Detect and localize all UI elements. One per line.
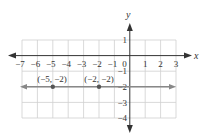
- arrow-right-icon: [184, 53, 192, 59]
- x-tick: 1: [143, 59, 148, 69]
- y-axis-label: y: [125, 9, 131, 20]
- y-tick: −1: [117, 66, 127, 76]
- arrow-left-icon: [8, 53, 16, 59]
- point-neg2-neg2: [97, 85, 101, 89]
- arrow-down-icon: [127, 125, 133, 133]
- y-tick-labels: 1 −1 −2 −3 −4: [117, 35, 127, 123]
- x-tick-labels: −7 −6 −5 −4 −3 −2 −1 0 1 2 3: [15, 59, 179, 69]
- x-tick: −3: [77, 59, 87, 69]
- y-tick: 1: [123, 35, 128, 45]
- line-y-neg2: (−5, −2) (−2, −2): [20, 74, 176, 90]
- x-tick: −5: [46, 59, 56, 69]
- x-tick: −2: [92, 59, 102, 69]
- point-label-2: (−2, −2): [84, 74, 114, 84]
- x-tick: −6: [31, 59, 41, 69]
- x-tick: 2: [158, 59, 163, 69]
- y-tick: −3: [117, 98, 127, 108]
- y-tick: −4: [117, 113, 127, 123]
- arrow-left-icon: [20, 84, 27, 90]
- x-tick: −4: [61, 59, 71, 69]
- arrow-up-icon: [127, 23, 133, 31]
- x-tick: −7: [15, 59, 25, 69]
- x-tick: −1: [108, 59, 118, 69]
- arrow-right-icon: [169, 84, 176, 90]
- coordinate-plane: x y −7 −6 −5 −4 −3 −2 −1 0 1 2 3 1 −1 −2…: [0, 0, 200, 135]
- x-axis-label: x: [193, 50, 199, 61]
- x-tick: 3: [174, 59, 179, 69]
- point-label-1: (−5, −2): [37, 74, 67, 84]
- point-neg5-neg2: [51, 85, 55, 89]
